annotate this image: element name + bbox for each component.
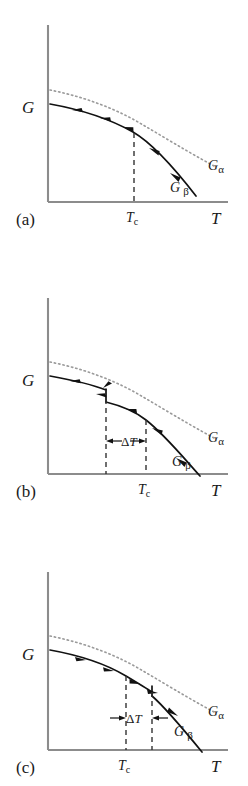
curve-g-alpha-c <box>50 636 214 712</box>
y-axis-label-c: G <box>22 645 34 664</box>
direction-arrows-a <box>72 108 181 182</box>
direction-arrows-b <box>70 379 187 467</box>
panel-label-b: (b) <box>16 482 36 501</box>
y-axis-label-a: G <box>22 98 34 117</box>
curve-label-g-beta-c: Gβ <box>174 724 193 741</box>
curve-label-g-alpha-b: Gα <box>208 430 224 447</box>
panel-c: ΔT G T (c) Tc Gα Gβ <box>0 524 248 786</box>
panel-a: G T (a) Tc Gα Gβ <box>0 0 248 262</box>
curve-g-beta-c <box>50 650 152 692</box>
curve-g-alpha-b <box>50 362 214 438</box>
curve-g-beta-b <box>50 376 106 390</box>
delta-t-label-b: ΔT <box>121 434 137 449</box>
x-axis-label-b: T <box>211 481 222 500</box>
tc-tick-label-a: Tc <box>126 210 139 227</box>
curve-label-g-alpha-a: Gα <box>208 158 224 175</box>
tc-tick-label-b: Tc <box>138 482 151 499</box>
axes-a <box>48 25 228 202</box>
panel-b: ΔT G T (b) Tc Gα Gβ <box>0 262 248 524</box>
delta-t-label-c: ΔT <box>126 711 142 726</box>
x-axis-label-c: T <box>211 757 222 776</box>
tc-tick-label-c: Tc <box>118 758 131 775</box>
x-axis-label-a: T <box>211 209 222 228</box>
curve-label-g-beta-b: Gβ <box>172 454 191 471</box>
curve-label-g-alpha-c: Gα <box>208 704 224 721</box>
figure-container: G T (a) Tc Gα Gβ <box>0 0 248 786</box>
axes-b <box>48 298 228 474</box>
panel-label-c: (c) <box>16 758 35 777</box>
panel-label-a: (a) <box>16 210 35 229</box>
y-axis-label-b: G <box>22 371 34 390</box>
